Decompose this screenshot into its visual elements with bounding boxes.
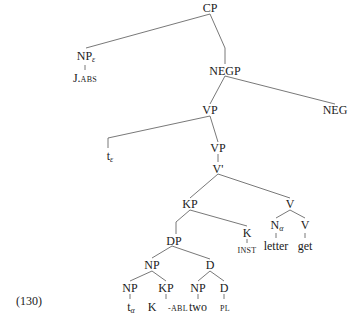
leaf-k: K xyxy=(148,301,157,313)
leaf-letter: letter xyxy=(264,240,289,252)
subscript-alpha: α xyxy=(131,306,135,315)
leaf-abl: -ABL xyxy=(168,303,188,315)
node-np-epsilon: NPε xyxy=(77,50,96,66)
leaf-inst: INST xyxy=(238,245,257,257)
node-v-bar: V' xyxy=(213,163,224,175)
node-vp-upper: VP xyxy=(202,104,217,116)
subscript-epsilon: ε xyxy=(92,55,95,64)
node-kp-lower: KP xyxy=(158,282,173,294)
node-k: K xyxy=(243,227,252,239)
subscript-alpha: α xyxy=(279,224,283,233)
example-number: (130) xyxy=(16,294,42,309)
node-neg: NEG xyxy=(323,104,348,116)
leaf-get: get xyxy=(298,240,313,252)
node-cp: CP xyxy=(203,2,218,14)
node-d-pl: D xyxy=(220,282,229,294)
node-d-mid: D xyxy=(206,259,215,271)
trace-epsilon: tε xyxy=(107,150,114,166)
tree-branches xyxy=(0,0,360,330)
leaf-two: two xyxy=(189,301,207,313)
node-vp-lower: VP xyxy=(210,142,225,154)
node-v-terminal: V xyxy=(301,219,310,231)
node-np-mid: NP xyxy=(144,259,159,271)
node-np-two: NP xyxy=(190,282,205,294)
node-v: V xyxy=(286,198,295,210)
node-kp: KP xyxy=(182,198,197,210)
leaf-pl: PL xyxy=(220,303,230,315)
node-negp: NEGP xyxy=(209,65,240,77)
node-n-alpha: Nα xyxy=(271,219,284,235)
subscript-epsilon: ε xyxy=(110,155,113,164)
leaf-j-abs: J.ABS xyxy=(73,72,97,86)
node-np-trace: NP xyxy=(122,282,137,294)
node-dp: DP xyxy=(166,235,181,247)
trace-alpha: tα xyxy=(127,301,135,317)
